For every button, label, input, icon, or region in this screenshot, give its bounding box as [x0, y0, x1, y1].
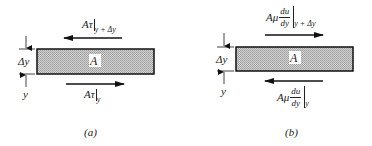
force-label-top-a: Aτy + Δy	[82, 19, 116, 34]
force-label-top-b: Aμ dudy y + Δy	[266, 6, 315, 28]
position-label-b: y	[221, 86, 226, 97]
block-label-a: A	[90, 55, 97, 67]
block-label-b: A	[290, 52, 297, 64]
derivative-fraction: dudy	[290, 87, 301, 108]
force-label-bottom-b: Aμ dudy y	[277, 86, 309, 108]
caption-a: (a)	[84, 126, 97, 138]
panel-a-graphics	[19, 36, 154, 87]
force-label-bottom-a: Aτy	[84, 89, 100, 104]
caption-b: (b)	[285, 126, 298, 138]
position-label-a: y	[23, 89, 28, 100]
thickness-label-a: Δy	[18, 56, 29, 67]
thickness-label-b: Δy	[216, 54, 227, 65]
diagram-graphics	[0, 0, 372, 146]
panel-b-graphics	[217, 33, 353, 84]
derivative-fraction: dudy	[279, 7, 290, 28]
